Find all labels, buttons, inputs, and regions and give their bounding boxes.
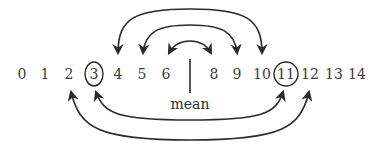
number-8: 8: [210, 66, 219, 82]
arrow-pair-4-10: [118, 9, 262, 53]
number-10: 10: [253, 66, 271, 82]
number-13: 13: [325, 66, 343, 82]
number-9: 9: [233, 66, 242, 82]
number-5: 5: [138, 66, 147, 82]
arrow-pair-5-9: [143, 25, 237, 53]
number-11: 11: [277, 66, 295, 82]
diagram-svg: 0 1 2 3 4 5 6 8 9 10 11 12 13 14 mean: [0, 0, 380, 155]
number-14: 14: [348, 66, 366, 82]
symmetric-pairs-diagram: 0 1 2 3 4 5 6 8 9 10 11 12 13 14 mean: [0, 0, 380, 155]
number-0: 0: [18, 66, 27, 82]
number-6: 6: [162, 66, 171, 82]
number-line: 0 1 2 3 4 5 6 8 9 10 11 12 13 14: [18, 66, 366, 82]
number-12: 12: [301, 66, 319, 82]
number-3: 3: [90, 66, 99, 82]
number-1: 1: [41, 66, 50, 82]
number-4: 4: [114, 66, 123, 82]
number-2: 2: [65, 66, 74, 82]
mean-label: mean: [171, 96, 210, 112]
arrow-pair-6-8: [169, 41, 211, 53]
